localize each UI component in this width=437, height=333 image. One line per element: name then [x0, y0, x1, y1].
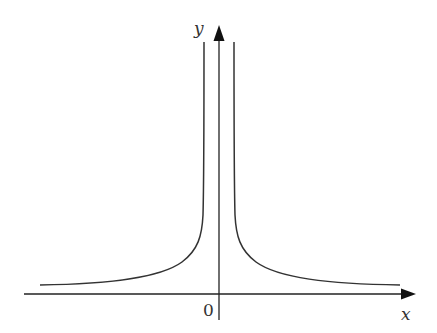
x-axis-arrow-icon: [401, 289, 416, 300]
curve-left-branch: [40, 42, 204, 285]
function-graph: y x 0: [0, 0, 437, 333]
x-axis-label: x: [401, 306, 411, 323]
origin-label: 0: [203, 302, 214, 319]
y-axis-arrow-icon: [214, 25, 225, 41]
curve-right-branch: [234, 42, 400, 285]
y-axis-label: y: [194, 20, 204, 37]
plot-canvas: [0, 0, 437, 333]
